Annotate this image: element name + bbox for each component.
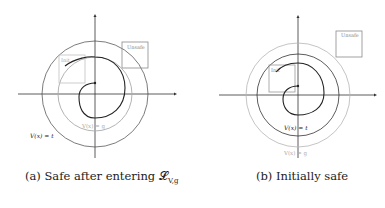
unsafe-label: Unsafe (341, 32, 359, 38)
caption-b-text: (b) Initially safe (256, 169, 348, 183)
y-axis-arrow-icon (297, 15, 300, 18)
figure-b: Init Unsafe V(x) = t V(x) = g (192, 0, 384, 160)
diagram-a: Init Unsafe V(x) = g V(x) = t (0, 0, 192, 160)
x-axis-arrow-icon (174, 93, 177, 96)
y-axis-arrow-icon (94, 14, 97, 17)
level-t-label: V(x) = t (284, 124, 308, 131)
caption-a-text: (a) Safe after entering 𝓛 (25, 169, 168, 183)
init-label: Init (61, 57, 70, 63)
level-t-label: V(x) = t (30, 132, 54, 139)
equilibrium-point (94, 82, 96, 84)
figure-a: Init Unsafe V(x) = g V(x) = t (0, 0, 192, 160)
level-g-label: V(x) = g (81, 123, 105, 130)
caption-a: (a) Safe after entering 𝓛V,g (25, 169, 178, 185)
caption-b: (b) Initially safe (256, 169, 348, 183)
x-axis-arrow-icon (374, 94, 377, 97)
caption-a-subscript: V,g (168, 177, 179, 185)
equilibrium-point (297, 85, 299, 87)
level-g-label: V(x) = g (283, 150, 307, 157)
trajectory (276, 63, 324, 115)
unsafe-label: Unsafe (127, 44, 145, 50)
diagram-b: Init Unsafe V(x) = t V(x) = g (192, 0, 385, 160)
